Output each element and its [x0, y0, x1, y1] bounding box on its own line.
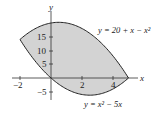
y-tick-label-15: 15 — [37, 32, 47, 42]
lower-curve-label: y = x² − 5x — [83, 99, 122, 109]
y-tick-label-neg5: −5 — [37, 87, 47, 97]
y-tick-label-10: 10 — [37, 46, 47, 56]
upper-curve-label: y = 20 + x − x² — [97, 25, 151, 35]
x-tick-label-neg2: −2 — [13, 80, 23, 90]
x-axis-label: x — [139, 73, 144, 83]
region-diagram: −2 2 4 15 10 5 −5 x y y = 20 + x − x² y … — [0, 0, 156, 113]
y-tick-label-5: 5 — [42, 59, 47, 69]
x-tick-label-2: 2 — [80, 80, 85, 90]
y-axis-label: y — [48, 2, 53, 12]
x-tick-label-4: 4 — [111, 80, 116, 90]
